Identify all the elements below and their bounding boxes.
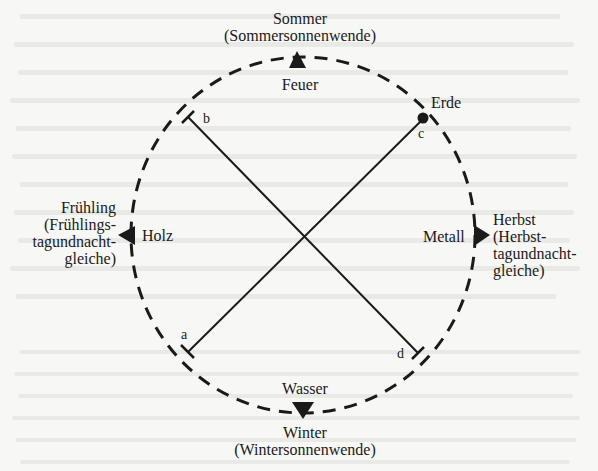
element-erde: Erde (431, 94, 461, 111)
element-feuer: Feuer (282, 76, 318, 93)
season-left-label: Frühling (Frühlings- tagundnacht- gleich… (32, 199, 116, 267)
season-sommer: Sommer (224, 10, 376, 27)
event-line-2: tagundnacht- (32, 233, 116, 250)
season-top-label: Sommer (Sommersonnenwende) (224, 10, 376, 44)
event-line-3: gleiche) (493, 262, 577, 279)
event-sommersonnenwende: (Sommersonnenwende) (224, 27, 376, 44)
diagram-canvas: Sommer (Sommersonnenwende) Feuer Erde Fr… (0, 0, 598, 471)
season-herbst: Herbst (493, 211, 577, 228)
point-c-label: c (418, 127, 424, 141)
triangle-right-icon (474, 225, 490, 246)
element-holz: Holz (142, 227, 173, 244)
event-wintersonnenwende: (Wintersonnenwende) (234, 441, 376, 458)
event-line-2: tagundnacht- (493, 245, 577, 262)
triangle-left-icon (118, 226, 135, 245)
earth-dot-icon (418, 113, 429, 124)
point-d-label: d (397, 347, 404, 361)
season-right-label: Herbst (Herbst- tagundnacht- gleiche) (493, 211, 577, 279)
element-wasser: Wasser (282, 380, 328, 397)
event-line-1: (Frühlings- (32, 216, 116, 233)
season-fruehling: Frühling (32, 199, 116, 216)
season-winter: Winter (234, 424, 376, 441)
triangle-down-icon (292, 402, 314, 419)
element-metall: Metall (423, 228, 465, 245)
event-line-3: gleiche) (32, 250, 116, 267)
point-b-label: b (203, 112, 210, 126)
point-a-label: a (181, 328, 187, 342)
season-bottom-label: Winter (Wintersonnenwende) (234, 424, 376, 458)
triangle-up-icon (289, 51, 306, 68)
event-line-1: (Herbst- (493, 228, 577, 245)
